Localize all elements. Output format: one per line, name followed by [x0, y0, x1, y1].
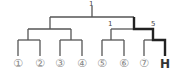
- leaf-2: ②: [32, 58, 48, 70]
- leaf-1: ①: [10, 58, 26, 70]
- leaf-7: ⑦: [136, 58, 152, 70]
- right-right-node-label: 5: [151, 20, 155, 28]
- root-node-label: 1: [89, 0, 93, 8]
- leaf-5: ⑤: [94, 58, 110, 70]
- leaf-6: ⑥: [116, 58, 132, 70]
- highlighted-path: [134, 17, 165, 56]
- leaf-4: ④: [74, 58, 90, 70]
- leaf-h: H: [157, 58, 173, 70]
- right-left-node-label: 1: [108, 20, 112, 28]
- leaf-3: ③: [52, 58, 68, 70]
